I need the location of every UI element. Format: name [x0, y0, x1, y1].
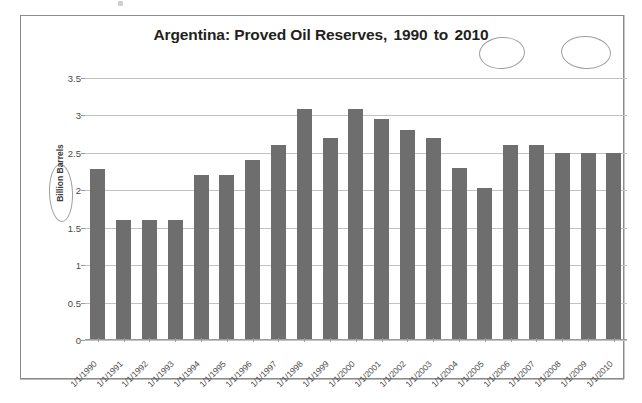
bar-1-1-2000[interactable] — [348, 109, 363, 340]
bar-series — [85, 78, 627, 340]
y-axis-tick-label: 1 — [41, 260, 81, 271]
bar-1-1-1993[interactable] — [168, 220, 183, 340]
bar-1-1-2006[interactable] — [503, 145, 518, 340]
x-axis-tick-label: 1/1/1990 — [68, 359, 98, 389]
x-axis-tick-mark — [433, 338, 434, 342]
x-axis-tick: 1/1/2010 — [606, 342, 621, 392]
chart-container: Argentina: Proved Oil Reserves, 1990 to … — [20, 15, 624, 379]
bar-1-1-2005[interactable] — [477, 188, 492, 340]
bar-1-1-1990[interactable] — [90, 169, 105, 340]
bar-1-1-2007[interactable] — [529, 145, 544, 340]
scan-artifact-speck — [118, 1, 123, 6]
x-axis-tick-mark — [382, 338, 383, 342]
bar-1-1-1996[interactable] — [245, 160, 260, 340]
bar-1-1-2009[interactable] — [581, 153, 596, 340]
chart-title-end-year: 2010 — [452, 26, 490, 44]
x-axis-tick-mark — [98, 338, 99, 342]
y-axis-tick-label: 3 — [41, 110, 81, 121]
bar-1-1-2002[interactable] — [400, 130, 415, 340]
plot-area — [85, 78, 627, 340]
y-axis-tick-label: 0.5 — [41, 297, 81, 308]
bar-1-1-2001[interactable] — [374, 119, 389, 340]
x-axis-tick-mark — [614, 338, 615, 342]
y-axis-tick-label: 3.5 — [41, 73, 81, 84]
x-axis-tick-mark — [511, 338, 512, 342]
bar-1-1-1998[interactable] — [297, 109, 312, 340]
x-axis-tick-mark — [459, 338, 460, 342]
y-axis-tick-labels: 3.532.521.510.50 — [39, 78, 81, 340]
bar-1-1-1991[interactable] — [116, 220, 131, 340]
bar-1-1-1995[interactable] — [219, 175, 234, 340]
x-axis-tick-mark — [227, 338, 228, 342]
chart-title-start-year: 1990 — [391, 26, 429, 44]
x-axis-tick-mark — [304, 338, 305, 342]
x-axis-tick-mark — [536, 338, 537, 342]
bar-1-1-1992[interactable] — [142, 220, 157, 340]
chart-title-lead: Argentina: Proved Oil Reserves, — [153, 26, 387, 43]
x-axis-tick-mark — [253, 338, 254, 342]
y-axis-tick-label: 1.5 — [41, 222, 81, 233]
x-axis-tick-mark — [356, 338, 357, 342]
x-axis-tick-mark — [407, 338, 408, 342]
x-axis-tick-mark — [485, 338, 486, 342]
y-axis-tick-label: 2.5 — [41, 147, 81, 158]
y-axis-tick-label: 2 — [41, 185, 81, 196]
x-axis-tick-mark — [562, 338, 563, 342]
bar-1-1-1997[interactable] — [271, 145, 286, 340]
x-axis-tick-mark — [330, 338, 331, 342]
x-axis-tick-mark — [201, 338, 202, 342]
x-axis-tick-mark — [124, 338, 125, 342]
bar-1-1-1994[interactable] — [194, 175, 209, 340]
chart-title-connector: to — [434, 26, 448, 43]
x-axis-tick-labels: 1/1/19901/1/19911/1/19921/1/19931/1/1994… — [85, 342, 627, 392]
bar-1-1-2008[interactable] — [555, 153, 570, 340]
x-axis-tick-mark — [278, 338, 279, 342]
bar-1-1-2003[interactable] — [426, 138, 441, 340]
bar-1-1-1999[interactable] — [323, 138, 338, 340]
chart-title: Argentina: Proved Oil Reserves, 1990 to … — [21, 26, 623, 44]
bar-1-1-2010[interactable] — [606, 153, 621, 340]
y-axis-tick-label: 0 — [41, 335, 81, 346]
x-axis-tick-mark — [588, 338, 589, 342]
bar-1-1-2004[interactable] — [452, 168, 467, 340]
x-axis-tick-mark — [175, 338, 176, 342]
x-axis-tick-mark — [149, 338, 150, 342]
